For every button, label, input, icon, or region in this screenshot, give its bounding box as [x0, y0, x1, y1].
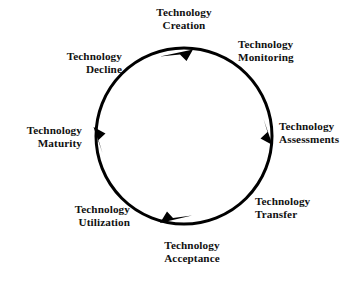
- stage-label-monitoring-line1: Technology: [238, 38, 358, 51]
- stage-label-decline-line1: Technology: [18, 50, 122, 63]
- stage-label-monitoring: Technology Monitoring: [238, 38, 358, 65]
- technology-lifecycle-diagram: Technology Creation Technology Monitorin…: [0, 0, 359, 282]
- stage-label-assessments-line2: Assessments: [279, 133, 359, 146]
- stage-label-maturity-line2: Maturity: [0, 137, 82, 150]
- stage-label-utilization-line1: Technology: [26, 203, 130, 216]
- stage-label-maturity-line1: Technology: [0, 124, 82, 137]
- stage-label-acceptance-line1: Technology: [122, 239, 262, 252]
- stage-label-assessments-line1: Technology: [279, 120, 359, 133]
- arrowhead-bottom-icon: [160, 212, 192, 224]
- stage-label-maturity: Technology Maturity: [0, 124, 82, 151]
- stage-label-transfer-line2: Transfer: [255, 208, 359, 221]
- stage-label-creation: Technology Creation: [118, 6, 250, 33]
- stage-label-utilization-line2: Utilization: [26, 216, 130, 229]
- stage-label-decline-line2: Decline: [18, 63, 122, 76]
- cycle-circle: [96, 48, 272, 224]
- stage-label-assessments: Technology Assessments: [279, 120, 359, 147]
- stage-label-monitoring-line2: Monitoring: [238, 51, 358, 64]
- stage-label-transfer-line1: Technology: [255, 195, 359, 208]
- stage-label-acceptance: Technology Acceptance: [122, 239, 262, 266]
- stage-label-creation-line1: Technology: [118, 6, 250, 19]
- stage-label-acceptance-line2: Acceptance: [122, 252, 262, 265]
- stage-label-transfer: Technology Transfer: [255, 195, 359, 222]
- stage-label-utilization: Technology Utilization: [26, 203, 130, 230]
- stage-label-decline: Technology Decline: [18, 50, 122, 77]
- stage-label-creation-line2: Creation: [118, 19, 250, 32]
